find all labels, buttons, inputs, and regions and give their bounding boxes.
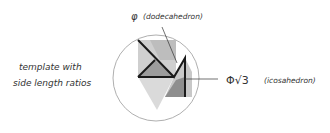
- phi-symbol: φ: [131, 11, 138, 22]
- phi-root3-symbol: Φ√3: [226, 74, 249, 87]
- icosahedron-label: (icosahedron): [264, 76, 316, 85]
- dodecahedron-label: (dodecahedron): [143, 12, 203, 21]
- left-label-line1: template with: [19, 62, 82, 72]
- diagram-canvas: φ (dodecahedron) Φ√3 (icosahedron) templ…: [0, 0, 330, 133]
- left-label-line2: side length ratios: [13, 78, 92, 88]
